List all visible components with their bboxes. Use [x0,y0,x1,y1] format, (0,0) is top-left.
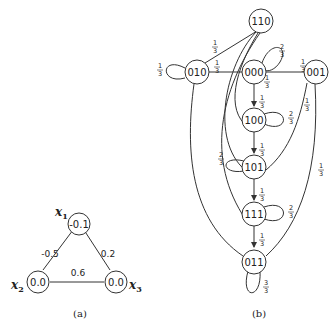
graph-a: -0.5 0.2 0.6 -0.1 0.0 0.0 x1 x2 x3 (a) [10,205,142,319]
node-001-label: 001 [306,67,325,78]
svg-text:3: 3 [158,70,162,78]
frac-010-000: 13 [214,59,220,75]
frac-101-111: 13 [259,187,265,203]
svg-text:3: 3 [289,118,293,126]
self-loop-100 [264,112,284,126]
svg-text:1: 1 [215,59,219,67]
frac-self-010: 13 [157,62,163,78]
figure-canvas: -0.5 0.2 0.6 -0.1 0.0 0.0 x1 x2 x3 (a) [0,0,335,328]
svg-text:3: 3 [219,159,223,167]
svg-text:1: 1 [305,97,309,105]
edge-010-011 [190,84,243,256]
frac-self-000: 23 [279,43,285,59]
graph-b: 13 13 13 23 13 13 13 23 13 13 23 13 23 1… [157,9,328,319]
svg-text:3: 3 [260,240,264,248]
svg-text:2: 2 [289,204,293,212]
self-loop-010 [166,65,185,79]
svg-text:1: 1 [213,39,217,47]
frac-010-110: 13 [212,39,218,55]
node-011-label: 011 [244,257,263,268]
svg-text:2: 2 [219,151,223,159]
frac-self-011: 33 [263,279,269,295]
svg-text:3: 3 [260,195,264,203]
node-x1-value: -0.1 [69,219,89,230]
svg-text:1: 1 [158,62,162,70]
svg-text:1: 1 [260,94,264,102]
svg-text:3: 3 [264,279,268,287]
node-101-label: 101 [244,162,263,173]
svg-text:3: 3 [215,67,219,75]
svg-text:3: 3 [265,82,269,90]
var-label-x1: x1 [54,205,68,221]
svg-text:1: 1 [301,58,305,66]
var-label-x3: x3 [128,278,142,294]
weight-x1-x3: 0.2 [101,249,115,259]
node-110-label: 110 [251,16,270,27]
svg-text:3: 3 [319,170,323,178]
node-010-label: 010 [187,67,206,78]
node-x3-value: 0.0 [108,277,124,288]
node-100-label: 100 [244,115,263,126]
var-label-x2: x2 [10,278,24,294]
caption-a: (a) [73,308,87,319]
svg-text:1: 1 [260,142,264,150]
svg-text:2: 2 [289,110,293,118]
frac-001-101: 13 [304,97,310,113]
node-x2-value: 0.0 [30,277,46,288]
node-111-label: 111 [244,209,263,220]
svg-text:2: 2 [280,43,284,51]
svg-text:1: 1 [260,187,264,195]
caption-b: (b) [252,308,266,319]
frac-self-111: 23 [288,204,294,220]
frac-000-100: 13 [259,94,265,110]
svg-text:3: 3 [260,102,264,110]
svg-text:3: 3 [280,51,284,59]
frac-001-011: 13 [318,162,324,178]
node-000-label: 000 [244,67,263,78]
svg-text:3: 3 [264,287,268,295]
self-loop-101 [226,160,244,172]
edge-110-101 [225,32,256,170]
svg-text:3: 3 [305,105,309,113]
frac-self-100: 23 [288,110,294,126]
svg-text:3: 3 [289,212,293,220]
svg-text:1: 1 [319,162,323,170]
weight-x1-x2: -0.5 [41,249,59,259]
frac-100-101: 13 [259,142,265,158]
self-loop-111 [264,205,284,220]
svg-text:1: 1 [260,232,264,240]
frac-111-011: 13 [259,232,265,248]
weight-x2-x3: 0.6 [71,268,86,278]
svg-text:3: 3 [213,47,217,55]
